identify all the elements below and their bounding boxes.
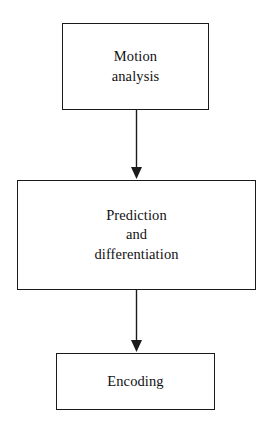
arrowhead-icon (131, 340, 142, 352)
flowchart-node-prediction-differentiation: Prediction and differentiation (17, 180, 256, 290)
flowchart-node-encoding: Encoding (56, 353, 215, 410)
node-label-line: Encoding (107, 372, 163, 391)
node-label-line: analysis (112, 67, 160, 86)
flowchart-canvas: Motion analysis Prediction and different… (0, 0, 274, 434)
node-label-line: Prediction (106, 206, 167, 225)
node-label-line: Motion (114, 47, 157, 66)
flowchart-node-motion-analysis: Motion analysis (62, 23, 209, 110)
node-label-line: differentiation (94, 245, 178, 264)
node-label-line: and (126, 225, 147, 244)
arrowhead-icon (131, 167, 142, 179)
